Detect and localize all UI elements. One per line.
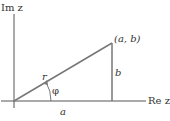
- point-label: (a, b): [114, 33, 141, 44]
- modulus-label: r: [42, 71, 48, 82]
- real-axis-label: Re z: [148, 95, 170, 106]
- imaginary-part-label: b: [115, 67, 121, 78]
- argument-label: φ: [52, 85, 59, 96]
- imaginary-axis-label: Im z: [1, 2, 23, 13]
- angle-arc: [46, 82, 51, 101]
- real-part-label: a: [60, 106, 66, 117]
- complex-plane-diagram: Im z Re z (a, b) r φ a b: [0, 0, 170, 121]
- modulus-line: [14, 43, 112, 101]
